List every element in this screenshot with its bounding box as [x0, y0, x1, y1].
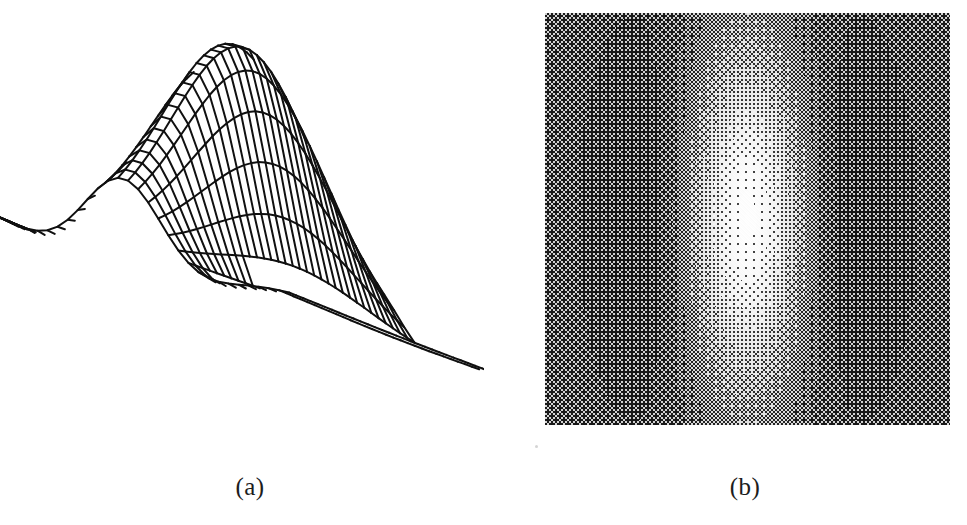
gabor-intensity-image-frame	[545, 13, 950, 425]
panel-b-grayscale-image	[484, 0, 967, 460]
scan-artifact-speck	[535, 445, 538, 448]
gabor-halftone-intensity-image	[545, 13, 950, 425]
panel-a-mesh-plot	[0, 0, 484, 460]
gabor-wireframe-mesh-surface	[0, 0, 484, 460]
figure-root: (a) (b)	[0, 0, 967, 525]
panel-b-caption: (b)	[665, 472, 825, 502]
panel-a-caption: (a)	[170, 472, 330, 502]
